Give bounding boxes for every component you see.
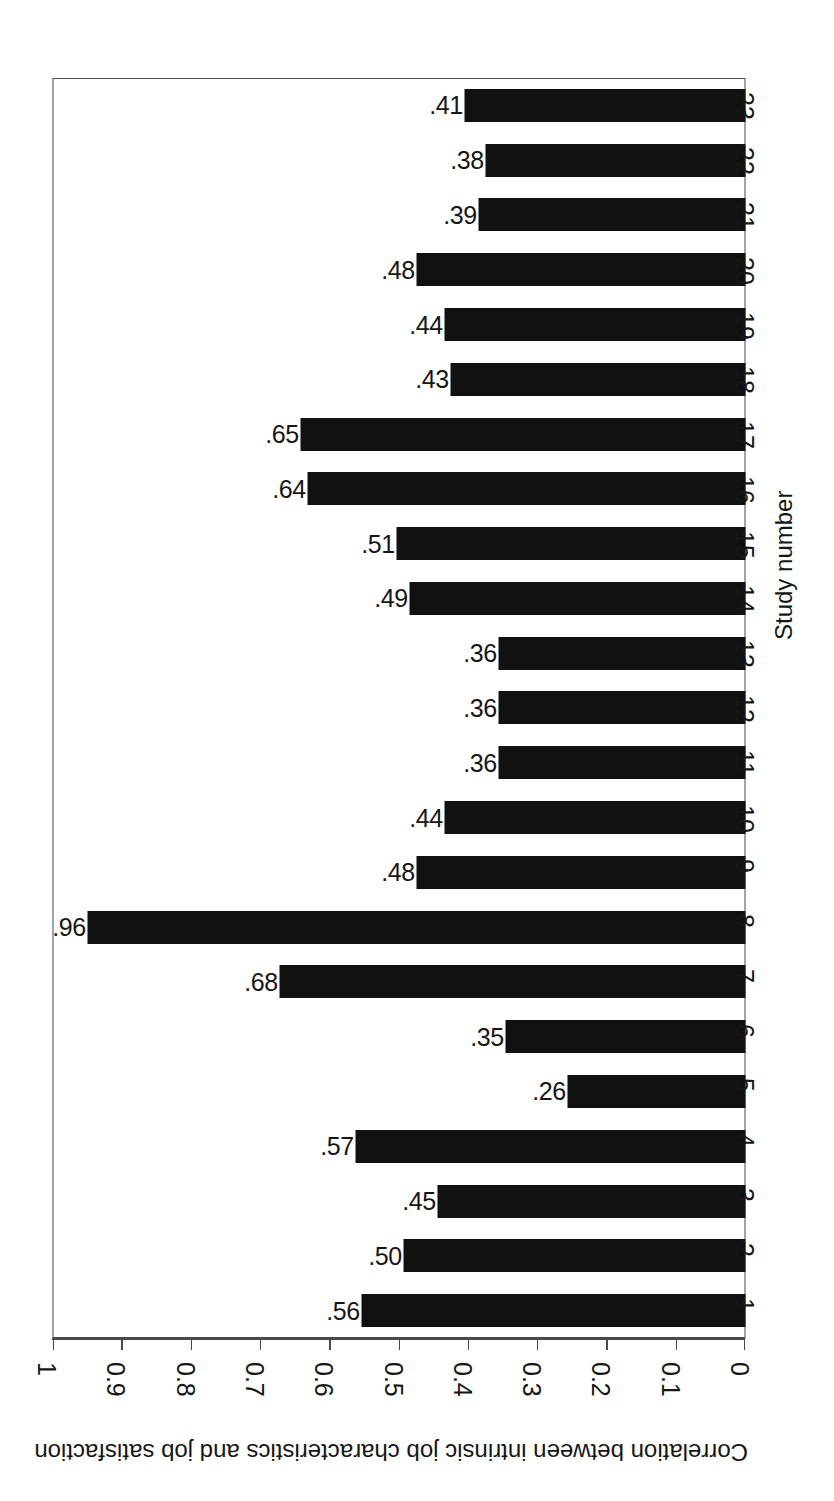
category-axis-title: Study number bbox=[770, 491, 798, 640]
category-axis-tick-label: 7 bbox=[730, 969, 759, 983]
bar bbox=[409, 582, 745, 615]
category-axis-tick-label: 22 bbox=[730, 147, 759, 175]
value-axis-tick bbox=[468, 1338, 469, 1350]
category-axis-tick-label: 21 bbox=[730, 202, 759, 230]
value-axis-tick bbox=[53, 1338, 54, 1350]
bar-value-label: .36 bbox=[463, 641, 496, 666]
bar-slot: .48 bbox=[52, 856, 745, 889]
bar-slot: .68 bbox=[52, 965, 745, 998]
bar bbox=[279, 965, 745, 998]
bar-slot: .26 bbox=[52, 1075, 745, 1108]
bar-slot: .41 bbox=[52, 89, 745, 122]
bar bbox=[416, 253, 745, 286]
bar bbox=[416, 856, 745, 889]
bar bbox=[498, 692, 745, 725]
bar bbox=[87, 911, 745, 944]
value-axis-tick bbox=[329, 1338, 330, 1350]
bar-value-label: .35 bbox=[470, 1024, 503, 1049]
bar-value-label: .64 bbox=[271, 476, 304, 501]
category-axis-tick-label: 14 bbox=[730, 585, 759, 613]
bar-value-label: .56 bbox=[326, 1298, 359, 1323]
bar-slot: .48 bbox=[52, 253, 745, 286]
bar-slot: .35 bbox=[52, 1020, 745, 1053]
category-axis-tick-label: 5 bbox=[730, 1078, 759, 1092]
bar bbox=[478, 198, 745, 231]
value-axis-tick-label: 0.2 bbox=[586, 1362, 615, 1397]
value-axis-tick-label: 0.6 bbox=[309, 1362, 338, 1397]
category-axis-tick-label: 12 bbox=[730, 695, 759, 723]
bar-value-label: .57 bbox=[319, 1134, 352, 1159]
category-axis-tick-label: 1 bbox=[730, 1298, 759, 1312]
bar bbox=[498, 746, 745, 779]
category-axis-tick-label: 13 bbox=[730, 640, 759, 668]
category-axis-tick-label: 18 bbox=[730, 366, 759, 394]
plot-area: .56.50.45.57.26.35.68.96.48.44.36.36.36.… bbox=[52, 78, 745, 1338]
category-axis-tick-label: 2 bbox=[730, 1243, 759, 1257]
chart-canvas: .56.50.45.57.26.35.68.96.48.44.36.36.36.… bbox=[0, 0, 834, 1501]
value-axis-tick bbox=[121, 1338, 122, 1350]
value-axis-tick bbox=[676, 1338, 677, 1350]
bar-value-label: .96 bbox=[52, 915, 85, 940]
value-axis-tick bbox=[537, 1338, 538, 1350]
bar bbox=[444, 801, 745, 834]
bar bbox=[361, 1294, 745, 1327]
value-axis-tick-label: 0.4 bbox=[448, 1362, 477, 1397]
bar bbox=[498, 637, 745, 670]
value-axis: 10.90.80.70.60.50.40.30.20.10 bbox=[52, 1338, 745, 1378]
bar-value-label: .36 bbox=[463, 696, 496, 721]
bar-value-label: .51 bbox=[361, 531, 394, 556]
bar-value-label: .65 bbox=[265, 422, 298, 447]
bar-slot: .96 bbox=[52, 911, 745, 944]
bar-slot: .56 bbox=[52, 1294, 745, 1327]
bar-slot: .45 bbox=[52, 1185, 745, 1218]
bar-value-label: .26 bbox=[532, 1079, 565, 1104]
category-axis-tick-label: 16 bbox=[730, 476, 759, 504]
value-axis-tick-label: 0.7 bbox=[240, 1362, 269, 1397]
value-axis-tick bbox=[399, 1338, 400, 1350]
bar-slot: .49 bbox=[52, 582, 745, 615]
bar-value-label: .39 bbox=[443, 202, 476, 227]
bar-slot: .64 bbox=[52, 472, 745, 505]
plot-rotated-inner: .56.50.45.57.26.35.68.96.48.44.36.36.36.… bbox=[52, 78, 745, 1338]
value-axis-tick bbox=[191, 1338, 192, 1350]
category-axis-tick-label: 10 bbox=[730, 805, 759, 833]
bar-slot: .57 bbox=[52, 1130, 745, 1163]
bar-value-label: .38 bbox=[450, 148, 483, 173]
value-axis-tick-label: 0.1 bbox=[656, 1362, 685, 1397]
bar-value-label: .44 bbox=[408, 805, 441, 830]
bar-value-label: .41 bbox=[429, 93, 462, 118]
category-axis-tick-label: 17 bbox=[730, 421, 759, 449]
bar bbox=[444, 308, 745, 341]
bar bbox=[300, 418, 745, 451]
category-axis-tick-label: 4 bbox=[730, 1133, 759, 1147]
bar bbox=[307, 472, 745, 505]
category-axis: 1234567891011121314151617181920212223 bbox=[745, 78, 815, 1338]
category-axis-tick-label: 9 bbox=[730, 859, 759, 873]
value-axis-tick-label: 0.5 bbox=[379, 1362, 408, 1397]
bar bbox=[505, 1020, 745, 1053]
value-axis-tick-label: 1 bbox=[32, 1362, 61, 1376]
bar-value-label: .43 bbox=[415, 367, 448, 392]
bar bbox=[396, 527, 745, 560]
value-axis-tick bbox=[606, 1338, 607, 1350]
bar-slot: .36 bbox=[52, 637, 745, 670]
bar-value-label: .48 bbox=[381, 860, 414, 885]
category-axis-tick-label: 19 bbox=[730, 312, 759, 340]
bar-slot: .43 bbox=[52, 363, 745, 396]
value-axis-tick-label: 0 bbox=[725, 1362, 754, 1376]
bar bbox=[355, 1130, 745, 1163]
bar-value-label: .68 bbox=[244, 969, 277, 994]
category-axis-tick-label: 3 bbox=[730, 1188, 759, 1202]
category-axis-tick-label: 8 bbox=[730, 914, 759, 928]
bar-slot: .51 bbox=[52, 527, 745, 560]
category-axis-tick-label: 15 bbox=[730, 531, 759, 559]
value-axis-title: Correlation between intrinsic job charac… bbox=[48, 1438, 748, 1466]
bar-slot: .39 bbox=[52, 198, 745, 231]
bar-value-label: .49 bbox=[374, 586, 407, 611]
bar-slot: .36 bbox=[52, 746, 745, 779]
bar bbox=[485, 144, 745, 177]
bar-value-label: .48 bbox=[381, 257, 414, 282]
bar-value-label: .36 bbox=[463, 750, 496, 775]
bar bbox=[567, 1075, 745, 1108]
bar-slot: .38 bbox=[52, 144, 745, 177]
